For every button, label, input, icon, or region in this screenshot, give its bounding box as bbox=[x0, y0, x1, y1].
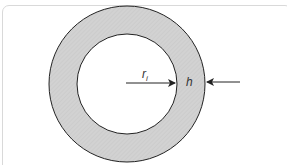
thickness-label: h bbox=[186, 75, 193, 89]
annulus-diagram: ri h bbox=[0, 0, 287, 165]
inner-circle bbox=[77, 34, 177, 134]
